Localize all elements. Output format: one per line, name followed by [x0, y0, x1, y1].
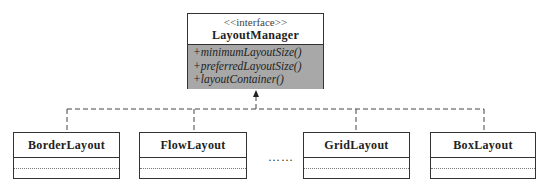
class-grid-layout: GridLayout: [303, 132, 410, 179]
class-name: GridLayout: [304, 133, 409, 158]
operations-compartment: +minimumLayoutSize() +preferredLayoutSiz…: [188, 45, 323, 89]
class-flow-layout: FlowLayout: [139, 132, 247, 179]
class-name: BorderLayout: [14, 133, 119, 158]
stereotype-label: <<interface>>: [188, 14, 323, 29]
ellipsis: ……: [268, 150, 294, 165]
class-name: FlowLayout: [140, 133, 246, 158]
operation-minimum-layout-size: +minimumLayoutSize(): [193, 46, 323, 60]
attributes-compartment: [14, 158, 119, 169]
attributes-compartment: [431, 158, 535, 169]
operation-layout-container: +layoutContainer(): [193, 73, 323, 87]
interface-layout-manager: <<interface>> LayoutManager +minimumLayo…: [187, 13, 324, 89]
arrowhead-icon: [253, 90, 259, 97]
operation-preferred-layout-size: +preferredLayoutSize(): [193, 60, 323, 74]
class-border-layout: BorderLayout: [13, 132, 120, 179]
attributes-compartment: [304, 158, 409, 169]
interface-header: <<interface>> LayoutManager: [188, 14, 323, 45]
class-name: BoxLayout: [431, 133, 535, 158]
attributes-compartment: [140, 158, 246, 169]
class-box-layout: BoxLayout: [430, 132, 536, 179]
interface-name: LayoutManager: [188, 29, 323, 42]
